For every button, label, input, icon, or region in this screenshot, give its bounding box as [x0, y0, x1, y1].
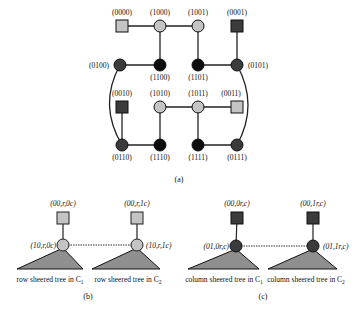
node-label: (1110)	[150, 153, 170, 162]
circle-node-icon	[192, 20, 204, 32]
node-label: (10,r,1c)	[146, 241, 172, 250]
tree-label: row sheered tree in C2	[95, 275, 162, 285]
column-sheered-trees: (00,0r,c) (00,1r,c) (01,0r,c) (01,1r,c) …	[185, 199, 349, 301]
node-label: (0010)	[112, 89, 132, 98]
circle-node-icon	[154, 59, 166, 71]
circle-node-icon	[192, 59, 204, 71]
node-label: (00,0r,c)	[224, 199, 250, 208]
node-label: (0011)	[221, 89, 241, 98]
graph-edges	[120, 26, 237, 145]
circle-node-icon	[192, 139, 204, 151]
circle-node-icon	[154, 101, 166, 113]
circle-node-icon	[154, 20, 166, 32]
tree-label: column sheered tree in C1	[185, 275, 263, 285]
square-node-icon	[231, 212, 243, 224]
circle-node-icon	[114, 59, 126, 71]
node-label: (0001)	[227, 8, 247, 17]
node-label: (01,0r,c)	[204, 242, 230, 251]
node-label: (0110)	[112, 153, 132, 162]
circle-node-icon	[231, 59, 243, 71]
square-node-icon	[307, 212, 319, 224]
caption-c: (c)	[259, 292, 268, 301]
square-node-icon	[116, 101, 128, 113]
square-node-icon	[116, 20, 128, 32]
square-node-icon	[131, 212, 143, 224]
node-label: (10,r,0c)	[31, 241, 57, 250]
node-label: (0111)	[227, 153, 247, 162]
tree-label: column sheered tree in C2	[267, 275, 345, 285]
node-label: (0100)	[89, 61, 109, 70]
node-label: (01,1r,c)	[323, 242, 349, 251]
hypercube-graph: (0000)(1000)(1001)(0001)(0100)(1100)(110…	[89, 8, 268, 184]
circle-node-icon	[230, 240, 242, 252]
circle-node-icon	[116, 139, 128, 151]
node-label: (1100)	[150, 73, 170, 82]
node-label: (1000)	[150, 8, 170, 17]
node-label: (0000)	[112, 8, 132, 17]
node-label: (1010)	[150, 89, 170, 98]
triangle-tree-icon	[188, 249, 259, 269]
triangle-tree-icon	[17, 248, 83, 269]
node-label: (00,r,1c)	[124, 199, 150, 208]
caption-a: (a)	[175, 175, 184, 184]
circle-node-icon	[57, 239, 69, 251]
node-label: (1011)	[188, 89, 208, 98]
tree-label: row sheered tree in C1	[17, 275, 84, 285]
graph-nodes	[114, 20, 243, 151]
node-label: (0101)	[248, 61, 268, 70]
circle-node-icon	[231, 139, 243, 151]
node-label: (1101)	[188, 73, 208, 82]
square-node-icon	[231, 20, 243, 32]
wraparound-arcs	[109, 65, 248, 145]
square-node-icon	[231, 101, 243, 113]
node-label: (1111)	[188, 153, 208, 162]
node-label: (00,1r,c)	[300, 199, 326, 208]
node-label: (00,r,0c)	[50, 199, 76, 208]
square-node-icon	[57, 212, 69, 224]
caption-b: (b)	[83, 292, 93, 301]
circle-node-icon	[154, 139, 166, 151]
node-label: (1001)	[188, 8, 208, 17]
circle-node-icon	[131, 239, 143, 251]
row-sheered-trees: (00,r,0c) (00,r,1c) (10,r,0c) (10,r,1c) …	[17, 199, 172, 301]
circle-node-icon	[307, 240, 319, 252]
triangle-tree-icon	[92, 248, 160, 269]
triangle-tree-icon	[268, 249, 337, 269]
circle-node-icon	[192, 101, 204, 113]
figure-canvas: (0000)(1000)(1001)(0001)(0100)(1100)(110…	[0, 0, 362, 314]
